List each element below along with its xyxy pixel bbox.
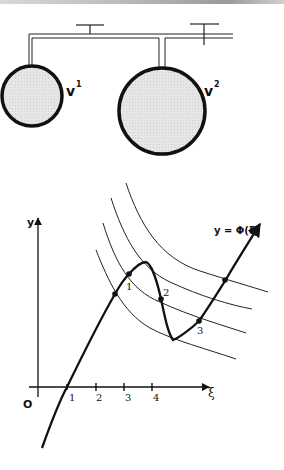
point-2-label: 2 (163, 287, 169, 298)
isoline-3 (111, 198, 252, 309)
point-b (222, 277, 228, 283)
isoline-4 (126, 183, 268, 292)
vessel-2-superscript: 2 (214, 80, 220, 89)
point-a (112, 291, 118, 297)
x-axis-label: ξ (208, 386, 215, 400)
y-axis-label: y (27, 216, 34, 229)
vessel-system: v 1 v 2 (2, 24, 233, 154)
phi-curve-label: y = Φ(ξ) (214, 225, 259, 236)
point-3-label: 3 (197, 325, 203, 336)
phase-plot: y ξ O 1 2 3 4 y = Φ(ξ) (23, 183, 268, 448)
x-tick-1: 1 (69, 392, 75, 403)
valve-1-icon (76, 25, 104, 34)
vessel-1 (2, 66, 62, 126)
phi-curve (42, 224, 260, 448)
isolines (96, 183, 268, 359)
main-pipe (29, 34, 233, 67)
x-tick-3: 3 (125, 392, 131, 403)
origin-label: O (23, 398, 32, 411)
point-1 (126, 271, 132, 277)
vessel-2-label: v (204, 83, 213, 99)
vessel-1-label: v (66, 83, 75, 99)
vessel-1-superscript: 1 (76, 80, 82, 89)
vessel-2 (119, 68, 205, 154)
x-tick-4: 4 (153, 392, 159, 403)
point-1-label: 1 (126, 281, 132, 292)
point-3 (196, 318, 202, 324)
figure-canvas: v 1 v 2 y ξ O 1 2 3 4 (0, 0, 284, 470)
x-tick-2: 2 (96, 392, 102, 403)
